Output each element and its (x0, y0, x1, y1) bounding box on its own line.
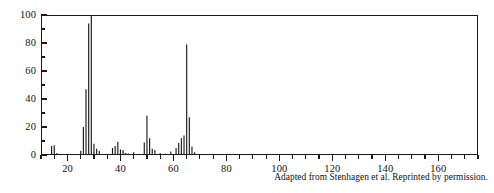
y-tick-major (41, 42, 47, 43)
x-tick-minor (80, 155, 81, 159)
y-tick-major (41, 14, 47, 15)
x-tick-minor (318, 155, 319, 159)
x-tick-minor (451, 155, 452, 159)
x-tick-minor (54, 155, 55, 159)
x-tick-minor (186, 155, 187, 159)
figure-caption: Adapted from Stenhagen et al. Reprinted … (0, 172, 488, 182)
y-tick-label: 20 (10, 121, 36, 132)
x-tick-minor (371, 155, 372, 159)
x-tick-major (67, 155, 68, 161)
x-tick-major (438, 155, 439, 161)
y-tick-minor (41, 112, 45, 113)
x-tick-minor (107, 155, 108, 159)
x-tick-minor (133, 155, 134, 159)
x-tick-major (173, 155, 174, 161)
x-tick-minor (252, 155, 253, 159)
x-tick-minor (424, 155, 425, 159)
x-tick-minor (292, 155, 293, 159)
y-tick-major (41, 126, 47, 127)
x-tick-minor (160, 155, 161, 159)
x-tick-minor (93, 155, 94, 159)
y-tick-major (41, 98, 47, 99)
x-tick-major (120, 155, 121, 161)
y-tick-minor (41, 28, 45, 29)
x-tick-minor (345, 155, 346, 159)
spectrum-plot (41, 15, 478, 155)
y-tick-major (41, 70, 47, 71)
x-tick-minor (239, 155, 240, 159)
x-tick-minor (411, 155, 412, 159)
x-tick-minor (213, 155, 214, 159)
y-tick-label: 80 (10, 37, 36, 48)
y-tick-major (41, 154, 47, 155)
y-tick-minor (41, 84, 45, 85)
x-tick-minor (305, 155, 306, 159)
y-tick-label: 40 (10, 93, 36, 104)
x-tick-minor (464, 155, 465, 159)
y-tick-minor (41, 140, 45, 141)
x-tick-minor (477, 155, 478, 159)
x-tick-major (332, 155, 333, 161)
x-tick-major (279, 155, 280, 161)
x-tick-minor (398, 155, 399, 159)
x-tick-minor (358, 155, 359, 159)
x-tick-minor (199, 155, 200, 159)
mass-spectrum-figure: 020406080100 20406080100120140160 Adapte… (0, 0, 494, 193)
x-tick-major (385, 155, 386, 161)
y-tick-label: 100 (10, 9, 36, 20)
x-tick-minor (40, 155, 41, 159)
y-tick-label: 60 (10, 65, 36, 76)
y-tick-label: 0 (10, 149, 36, 160)
y-tick-minor (41, 56, 45, 57)
x-tick-minor (146, 155, 147, 159)
x-tick-minor (266, 155, 267, 159)
x-tick-major (226, 155, 227, 161)
